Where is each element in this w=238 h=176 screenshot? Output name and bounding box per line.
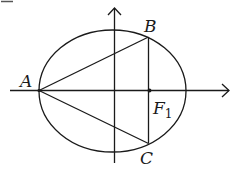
label-B: B xyxy=(143,16,157,36)
ellipse-diagram: A B C F1 xyxy=(0,0,238,176)
segment-AB xyxy=(39,37,149,91)
point-A xyxy=(37,89,40,92)
point-F1 xyxy=(148,89,152,93)
label-F1: F1 xyxy=(152,98,172,121)
label-A: A xyxy=(18,71,32,91)
label-F1-subscript: 1 xyxy=(165,107,173,121)
label-C: C xyxy=(140,148,153,168)
segment-AC xyxy=(39,91,149,144)
